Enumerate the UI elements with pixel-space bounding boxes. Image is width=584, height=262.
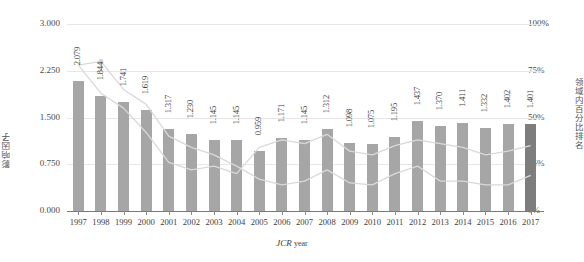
- x-tick-mark: [305, 211, 306, 215]
- x-axis-title-main: JCR: [276, 238, 292, 248]
- x-tick-mark: [485, 211, 486, 215]
- y-tick-label: 0.000: [18, 206, 60, 215]
- x-tick-mark: [259, 211, 260, 215]
- bar-value-label: 1.401: [526, 90, 535, 108]
- bar-value-label: 1.402: [503, 90, 512, 108]
- bar-value-label: 1.075: [367, 110, 376, 128]
- bar-value-label: 1.317: [164, 95, 173, 113]
- y-axis-title-right: 领域内百分比排名: [574, 78, 583, 188]
- x-axis-line: [67, 211, 544, 212]
- x-tick-mark: [463, 211, 464, 215]
- bar-value-label: 1.145: [209, 106, 218, 124]
- x-tick-mark: [508, 211, 509, 215]
- bar-value-label: 1.195: [390, 103, 399, 121]
- y-tick-label: 0.750: [18, 159, 60, 168]
- x-tick-mark: [124, 211, 125, 215]
- bar-value-label: 1.145: [300, 106, 309, 124]
- x-tick-mark: [146, 211, 147, 215]
- x-tick-mark: [327, 211, 328, 215]
- x-tick-mark: [214, 211, 215, 215]
- x-tick-mark: [350, 211, 351, 215]
- bar-value-label: 1.312: [322, 95, 331, 113]
- bar-value-label: 1.844: [96, 62, 105, 80]
- bar-value-label: 1.098: [345, 109, 354, 127]
- bar-value-label: 2.079: [73, 47, 82, 65]
- bar-value-label: 1.437: [413, 87, 422, 105]
- impact-factor-chart: 影响因子 领域内百分比排名 0.0000.7501.5002.2503.000 …: [0, 0, 584, 262]
- x-tick-mark: [418, 211, 419, 215]
- x-tick-mark: [169, 211, 170, 215]
- x-axis-title: JCR year: [232, 238, 352, 248]
- bar-value-label: 1.741: [119, 68, 128, 86]
- bar-value-label: 1.332: [480, 94, 489, 112]
- y-tick-label: 3.000: [18, 19, 60, 28]
- x-tick-mark: [78, 211, 79, 215]
- bar-value-label: 1.370: [435, 92, 444, 110]
- x-axis-title-sub: year: [294, 239, 308, 248]
- bar-value-label: 0.959: [254, 117, 263, 135]
- bar-value-label: 1.411: [458, 89, 467, 107]
- y-axis-title-left: 影响因子: [3, 72, 12, 168]
- bar-value-label: 1.171: [277, 104, 286, 122]
- bar-value-label: 1.230: [186, 100, 195, 118]
- bar-value-label: 1.145: [232, 106, 241, 124]
- x-tick-mark: [101, 211, 102, 215]
- x-tick-mark: [191, 211, 192, 215]
- x-tick-mark: [372, 211, 373, 215]
- x-tick-mark: [395, 211, 396, 215]
- x-tick-mark: [282, 211, 283, 215]
- y-tick-label: 1.500: [18, 113, 60, 122]
- bar-value-label: 1.619: [141, 76, 150, 94]
- x-tick-mark: [237, 211, 238, 215]
- x-tick-mark: [531, 211, 532, 215]
- x-tick-mark: [440, 211, 441, 215]
- y-tick-label: 2.250: [18, 66, 60, 75]
- x-tick-label: 2017: [518, 218, 544, 227]
